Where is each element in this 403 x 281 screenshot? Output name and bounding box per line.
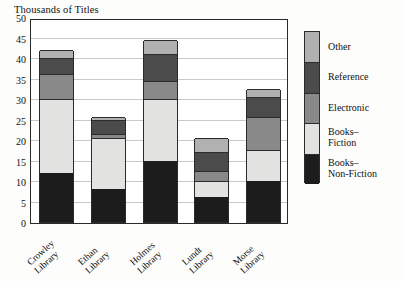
legend-swatch-column xyxy=(304,31,320,183)
bar-segment[interactable] xyxy=(195,181,228,197)
legend-label-line: Reference xyxy=(328,71,369,82)
bar-segment[interactable] xyxy=(144,54,177,81)
legend: OtherReferenceElectronicBooks–FictionBoo… xyxy=(304,31,400,191)
bar-segment[interactable] xyxy=(92,134,125,138)
x-tick-label: MorseLibrary xyxy=(231,241,266,276)
legend-label-line: Books– xyxy=(328,157,377,168)
x-tick-label: CrowleyLibrary xyxy=(25,238,63,275)
bar-segment[interactable] xyxy=(247,117,280,150)
bar-group[interactable] xyxy=(143,18,178,223)
legend-swatch xyxy=(305,123,319,153)
legend-swatch xyxy=(305,32,319,62)
y-tick-label: 25 xyxy=(16,117,26,127)
y-tick-label: 20 xyxy=(16,137,26,147)
bar-segment[interactable] xyxy=(195,171,228,181)
bar-segment[interactable] xyxy=(40,50,73,58)
chart-title: Thousands of Titles xyxy=(14,4,99,15)
bar-segment[interactable] xyxy=(195,197,228,222)
bar-segment[interactable] xyxy=(40,173,73,222)
bar-stack[interactable] xyxy=(246,90,281,223)
legend-label-line: Books– xyxy=(328,126,359,137)
y-tick-label: 0 xyxy=(21,219,26,229)
bar-segment[interactable] xyxy=(195,138,228,152)
bar-segment[interactable] xyxy=(247,97,280,118)
bar-segment[interactable] xyxy=(195,152,228,170)
legend-label: Other xyxy=(328,41,351,52)
bar-segment[interactable] xyxy=(247,181,280,222)
bar-group[interactable] xyxy=(246,18,281,223)
legend-label-line: Other xyxy=(328,41,351,52)
y-tick-label: 40 xyxy=(16,55,26,65)
bar-stack[interactable] xyxy=(143,41,178,223)
bar-segment[interactable] xyxy=(144,40,177,54)
y-tick-label: 30 xyxy=(16,96,26,106)
legend-label-line: Non-Fiction xyxy=(328,168,377,179)
x-axis-labels: CrowleyLibraryEthanLibraryHolmesLibraryL… xyxy=(30,224,288,281)
bar-group[interactable] xyxy=(91,18,126,223)
legend-label: Electronic xyxy=(328,102,369,113)
bars-layer xyxy=(31,20,287,223)
plot-area xyxy=(30,19,288,224)
legend-label-line: Fiction xyxy=(328,137,359,148)
bar-segment[interactable] xyxy=(247,89,280,97)
x-tick-label: LundtLibrary xyxy=(180,241,215,276)
bar-segment[interactable] xyxy=(247,150,280,181)
legend-label-line: Electronic xyxy=(328,102,369,113)
legend-label: Books–Fiction xyxy=(328,126,359,148)
bar-segment[interactable] xyxy=(144,99,177,161)
y-tick-label: 50 xyxy=(16,14,26,24)
bar-segment[interactable] xyxy=(92,117,125,120)
x-tick-label: HolmesLibrary xyxy=(128,240,164,275)
x-tick-label: EthanLibrary xyxy=(76,241,111,276)
bar-group[interactable] xyxy=(39,18,74,223)
bar-segment[interactable] xyxy=(92,138,125,189)
y-axis: 05101520253035404550 xyxy=(0,19,28,224)
bar-stack[interactable] xyxy=(91,118,126,223)
bar-group[interactable] xyxy=(194,18,229,223)
bar-segment[interactable] xyxy=(92,120,125,134)
bar-segment[interactable] xyxy=(40,74,73,99)
legend-label: Books–Non-Fiction xyxy=(328,157,377,179)
legend-label: Reference xyxy=(328,71,369,82)
bar-stack[interactable] xyxy=(194,139,229,223)
y-tick-label: 35 xyxy=(16,76,26,86)
legend-swatch xyxy=(305,154,319,184)
bar-stack[interactable] xyxy=(39,51,74,223)
legend-swatch xyxy=(305,62,319,92)
chart-root: Thousands of Titles 05101520253035404550… xyxy=(0,0,403,281)
bar-segment[interactable] xyxy=(144,161,177,223)
bar-segment[interactable] xyxy=(40,99,73,173)
legend-swatch xyxy=(305,93,319,123)
y-tick-label: 10 xyxy=(16,178,26,188)
bar-segment[interactable] xyxy=(92,189,125,222)
y-tick-label: 5 xyxy=(21,199,26,209)
bar-segment[interactable] xyxy=(40,58,73,74)
bar-segment[interactable] xyxy=(144,81,177,99)
y-tick-label: 15 xyxy=(16,158,26,168)
y-tick-label: 45 xyxy=(16,35,26,45)
